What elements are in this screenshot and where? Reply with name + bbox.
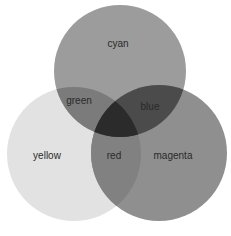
yellow-label: yellow <box>33 151 61 161</box>
magenta-label: magenta <box>154 151 193 161</box>
green-label: green <box>66 96 92 106</box>
venn-diagram <box>0 0 231 236</box>
red-label: red <box>107 151 121 161</box>
cyan-label: cyan <box>107 39 128 49</box>
blue-label: blue <box>141 102 160 112</box>
